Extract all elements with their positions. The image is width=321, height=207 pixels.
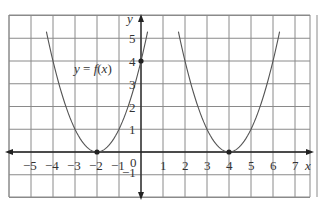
y-axis-down-arrow-icon (138, 192, 144, 200)
y-tick-label: 4 (129, 54, 136, 69)
y-tick-label: 5 (129, 31, 136, 46)
tick-labels: −5−4−3−2−11234567−112345 (23, 31, 299, 180)
y-tick-label: 3 (129, 77, 136, 92)
x-tick-label: 5 (248, 158, 255, 173)
y-tick-label: 1 (129, 122, 136, 137)
x-tick-label: −3 (67, 158, 81, 173)
marked-point (138, 58, 143, 63)
parabola-graph: −5−4−3−2−11234567−112345 x y 0 y = f(x) (0, 0, 321, 207)
x-tick-label: −5 (23, 158, 37, 173)
x-tick-label: 2 (182, 158, 189, 173)
x-tick-label: 7 (292, 158, 299, 173)
marked-point (226, 149, 231, 154)
x-tick-label: −4 (45, 158, 59, 173)
origin-label: 0 (130, 155, 137, 170)
x-tick-label: 3 (204, 158, 211, 173)
y-tick-label: 2 (129, 100, 136, 115)
x-tick-label: 6 (270, 158, 277, 173)
x-axis-label: x (304, 158, 311, 173)
y-axis-label: y (125, 11, 133, 26)
x-tick-label: −2 (89, 158, 103, 173)
x-axis (5, 149, 314, 155)
x-tick-label: 4 (226, 158, 233, 173)
marked-point (94, 149, 99, 154)
x-tick-label: 1 (160, 158, 167, 173)
function-label: y = f(x) (72, 61, 112, 76)
